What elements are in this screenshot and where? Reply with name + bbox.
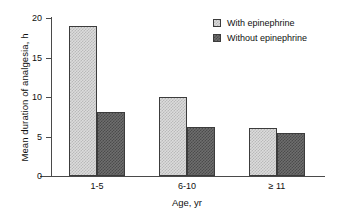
- bar: [277, 133, 305, 176]
- x-axis-title: Age, yr: [52, 197, 322, 208]
- y-axis-tick-label: 20: [22, 13, 42, 23]
- y-axis-tick-label: 5: [22, 131, 42, 141]
- x-axis-tick-label: ≥ 11: [237, 181, 317, 191]
- x-axis-tick-label: 1-5: [57, 181, 137, 191]
- bar: [69, 26, 97, 176]
- y-axis-tick: [46, 176, 52, 177]
- legend-item: With epinephrine: [213, 16, 307, 29]
- y-axis-tick-label-box: 10: [22, 97, 42, 98]
- bar: [159, 97, 187, 176]
- x-axis-line: [40, 176, 325, 177]
- y-axis-tick-label-box: 0: [22, 176, 42, 177]
- legend-item-label: Without epinephrine: [227, 33, 307, 43]
- bar: [187, 127, 215, 176]
- bar: [97, 112, 125, 176]
- y-axis-tick-label: 0: [22, 171, 42, 181]
- bar-chart-figure: Mean duration of analgesia, h 05101520 1…: [0, 0, 339, 218]
- y-axis-tick-label: 15: [22, 52, 42, 62]
- legend-item: Without epinephrine: [213, 31, 307, 44]
- y-axis-tick-label-box: 15: [22, 58, 42, 59]
- chart-legend: With epinephrineWithout epinephrine: [213, 16, 307, 46]
- dark-checker-swatch: [213, 34, 221, 42]
- y-axis-tick-label: 10: [22, 92, 42, 102]
- light-checker-swatch: [213, 19, 221, 27]
- bar: [249, 128, 277, 176]
- x-axis-tick-label: 6-10: [147, 181, 227, 191]
- y-axis-tick-label-box: 5: [22, 137, 42, 138]
- y-axis-tick-label-box: 20: [22, 18, 42, 19]
- legend-item-label: With epinephrine: [227, 18, 295, 28]
